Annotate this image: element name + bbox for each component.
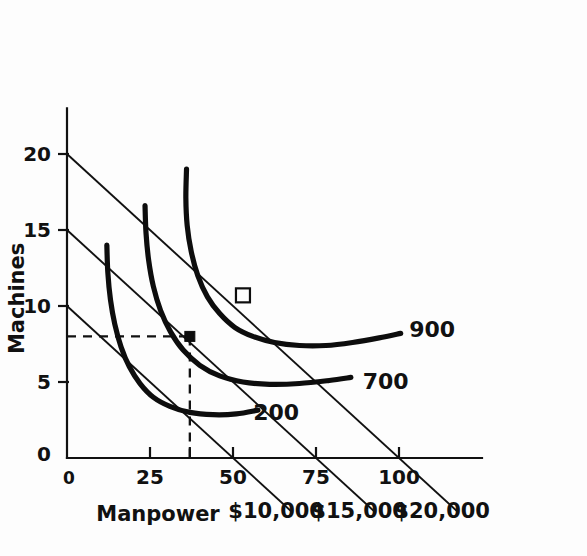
guide-lines-layer: [67, 336, 190, 458]
y-tick-label-20: 20: [23, 142, 51, 166]
y-axis-title: Machines: [5, 243, 29, 354]
isoquant-label-900: 900: [409, 317, 455, 342]
chart-svg: 051015200255075100 $10,000$15,000$20,000…: [0, 0, 587, 556]
isoquant-isocost-chart: 051015200255075100 $10,000$15,000$20,000…: [0, 0, 587, 556]
isoquant-label-700: 700: [363, 369, 409, 394]
x-tick-label-100: 100: [378, 465, 420, 489]
isoquant-curve-900: [186, 169, 401, 346]
marker-optimum-700-15000: [185, 331, 195, 341]
isocost-label-2: $20,000: [394, 499, 490, 523]
marker-optimum-900-20000: [236, 288, 250, 302]
x-axis-title: Manpower: [96, 502, 220, 526]
isocost-label-1: $15,000: [311, 499, 407, 523]
axes-layer: 051015200255075100: [23, 108, 482, 489]
y-tick-label-15: 15: [23, 218, 51, 242]
x-tick-label-75: 75: [302, 465, 330, 489]
y-tick-label-5: 5: [37, 370, 51, 394]
x-tick-label-50: 50: [219, 465, 247, 489]
isoquant-layer: [107, 169, 401, 415]
isocost-label-0: $10,000: [228, 499, 324, 523]
isoquant-label-200: 200: [253, 400, 299, 425]
x-tick-label-0: 0: [63, 468, 75, 488]
y-tick-label-0: 0: [37, 442, 51, 466]
x-tick-label-25: 25: [136, 465, 164, 489]
